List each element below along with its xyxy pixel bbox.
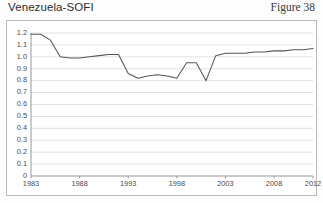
y-axis-tick-label: 1.0 [7, 53, 27, 61]
y-axis-tick-label: 0.2 [7, 148, 27, 156]
data-series-line [31, 34, 313, 80]
y-axis-tick-label: 0.8 [7, 76, 27, 84]
y-axis-tick-label: 0.6 [7, 100, 27, 108]
y-axis-tick-label: 0.7 [7, 88, 27, 96]
figure-header: Venezuela-SOFI Figure 38 [0, 0, 323, 19]
line-chart [7, 21, 316, 195]
figure-number-label: Figure 38 [271, 1, 315, 13]
figure-container: Venezuela-SOFI Figure 38 1.21.11.00.90.8… [0, 0, 323, 203]
page-title: Venezuela-SOFI [8, 1, 94, 13]
x-axis-tick-label: 1993 [113, 180, 143, 188]
x-axis-tick-label: 2003 [210, 180, 240, 188]
x-axis-tick-label: 1983 [16, 180, 46, 188]
x-axis-tick-label: 2008 [259, 180, 289, 188]
y-axis-tick-label: 1.1 [7, 41, 27, 49]
y-axis-tick-label: 1.2 [7, 29, 27, 37]
chart-frame: 1.21.11.00.90.80.70.60.50.40.30.20.10198… [6, 20, 317, 196]
y-axis-tick-label: 0.3 [7, 136, 27, 144]
y-axis-tick-label: 0.5 [7, 112, 27, 120]
x-axis-tick-label: 2012 [298, 180, 323, 188]
x-axis-tick-label: 1988 [65, 180, 95, 188]
y-axis-tick-label: 0.9 [7, 65, 27, 73]
x-axis-tick-label: 1998 [162, 180, 192, 188]
y-axis-tick-label: 0.1 [7, 160, 27, 168]
y-axis-tick-label: 0.4 [7, 124, 27, 132]
